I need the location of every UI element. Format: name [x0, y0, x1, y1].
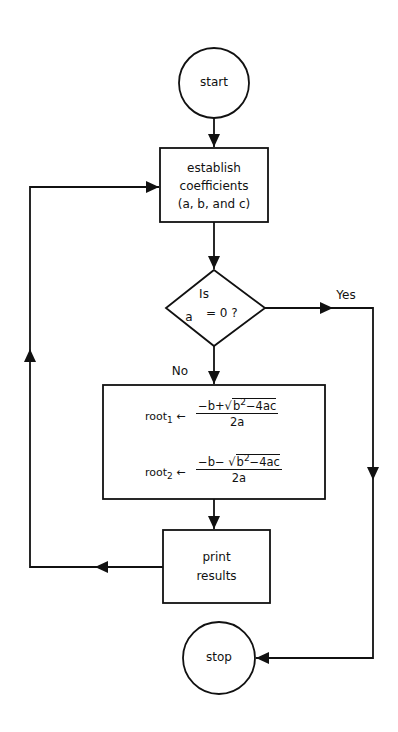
establish-label-line2: coefficients: [160, 179, 268, 194]
no-label: No: [168, 364, 192, 379]
decision-label-is: Is: [194, 287, 214, 302]
root2-lhs: root2 ←: [145, 466, 186, 481]
establish-label-line1: establish: [160, 161, 268, 176]
arrow-down-icon: [208, 516, 220, 529]
root2-formula: −b− √b2−4ac 2a: [196, 453, 282, 485]
stop-label: stop: [189, 650, 249, 665]
print-label-line1: print: [163, 550, 270, 565]
edge-loop: [30, 187, 163, 567]
print-label-line2: results: [163, 569, 270, 584]
yes-label: Yes: [331, 288, 361, 303]
arrow-down-icon: [367, 467, 379, 480]
arrow-left-icon: [95, 561, 108, 573]
establish-label-line3: (a, b, and c): [160, 197, 268, 212]
arrow-down-icon: [208, 256, 220, 269]
arrow-down-icon: [208, 371, 220, 384]
start-label: start: [184, 75, 244, 90]
decision-label-eq: = 0 ?: [206, 306, 250, 321]
arrow-right-icon: [320, 302, 333, 314]
arrow-down-icon: [208, 134, 220, 147]
decision-label-a: a: [182, 310, 196, 325]
print-node: [163, 530, 270, 603]
arrow-left-icon: [256, 652, 269, 664]
root1-formula: −b+√b2−4ac 2a: [196, 397, 278, 429]
arrow-right-icon: [146, 181, 159, 193]
root1-lhs: root1 ←: [145, 410, 186, 425]
flowchart-canvas: [0, 0, 398, 732]
arrow-up-icon: [24, 349, 36, 362]
